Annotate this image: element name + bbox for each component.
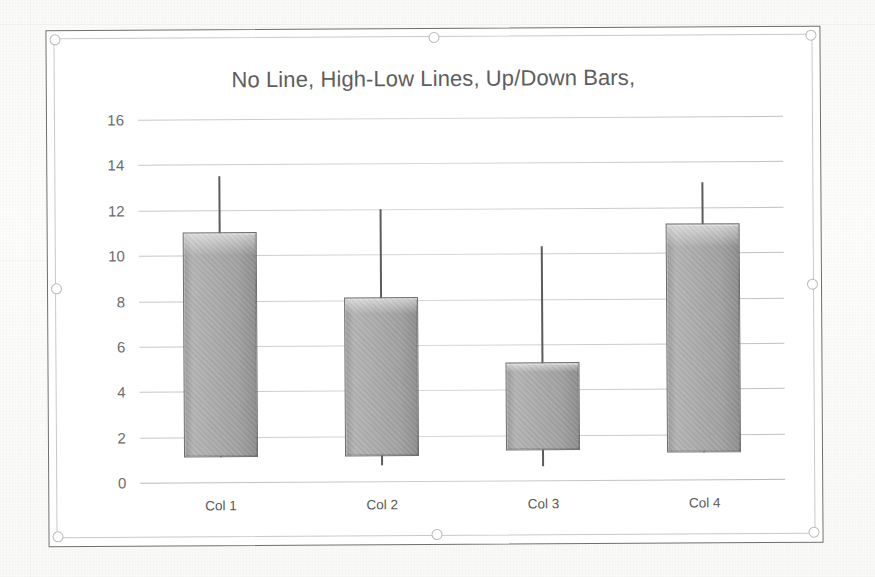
y-axis-tick-label: 4 xyxy=(86,384,126,401)
y-axis-tick-label: 12 xyxy=(84,202,124,219)
worksheet-gridline xyxy=(565,0,566,30)
y-axis-tick-label: 6 xyxy=(85,338,125,355)
y-axis-tick-label: 8 xyxy=(85,293,125,310)
gridline xyxy=(138,161,783,166)
y-axis-tick-label: 14 xyxy=(84,157,124,174)
up-down-bar[interactable] xyxy=(666,223,741,453)
x-axis-tick-label: Col 3 xyxy=(528,496,560,511)
x-axis-tick-label: Col 4 xyxy=(689,495,721,510)
chart-title: No Line, High-Low Lines, Up/Down Bars, xyxy=(46,64,821,95)
y-axis-tick-label: 0 xyxy=(86,474,126,491)
y-axis-tick-label: 16 xyxy=(84,111,124,128)
gridline xyxy=(139,207,784,212)
y-axis-tick-label: 10 xyxy=(85,248,125,265)
x-axis-tick-label: Col 2 xyxy=(366,497,398,512)
plot-area: 0246810121416Col 1Col 2Col 3Col 4 xyxy=(138,116,785,483)
up-down-bar[interactable] xyxy=(506,362,581,451)
excel-chart-object[interactable]: No Line, High-Low Lines, Up/Down Bars, 0… xyxy=(45,26,823,548)
up-down-bar[interactable] xyxy=(182,233,257,458)
up-down-bar[interactable] xyxy=(344,297,419,456)
y-axis-tick-label: 2 xyxy=(86,429,126,446)
worksheet-gridline xyxy=(0,24,875,25)
worksheet-gridline xyxy=(300,0,301,30)
worksheet-gridline xyxy=(30,0,31,577)
x-axis-tick-label: Col 1 xyxy=(205,498,237,513)
worksheet-gridline xyxy=(0,260,48,261)
